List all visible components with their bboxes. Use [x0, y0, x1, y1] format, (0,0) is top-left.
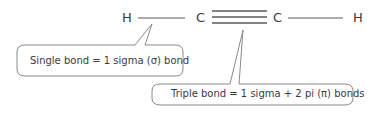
atom-h-left: H [122, 11, 132, 24]
callout-single-bond-shape [17, 24, 183, 76]
callout-single-bond-text: Single bond = 1 sigma (σ) bond [30, 56, 189, 66]
atom-h-right: H [353, 11, 363, 24]
callout-triple-bond-text: Triple bond = 1 sigma + 2 pi (π) bonds [171, 89, 365, 99]
atom-c-right: C [273, 11, 282, 24]
triple-bond [212, 11, 267, 23]
atom-c-left: C [196, 11, 205, 24]
